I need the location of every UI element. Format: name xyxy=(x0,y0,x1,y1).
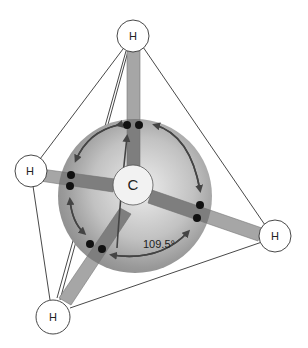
hydrogen-label: H xyxy=(26,165,34,177)
hydrogen-label: H xyxy=(129,30,137,42)
hydrogen-atom-right: H xyxy=(259,220,291,252)
methane-diagram: C H H H H 109.5° xyxy=(0,0,308,348)
hydrogen-label: H xyxy=(271,230,279,242)
carbon-atom: C xyxy=(113,165,153,205)
hydrogen-label: H xyxy=(49,311,57,323)
carbon-label: C xyxy=(128,176,139,193)
hydrogen-atom-top: H xyxy=(117,20,149,52)
hydrogen-atom-left: H xyxy=(15,155,47,187)
bond-angle-label: 109.5° xyxy=(143,238,175,250)
hydrogen-atom-bottom: H xyxy=(36,300,70,334)
